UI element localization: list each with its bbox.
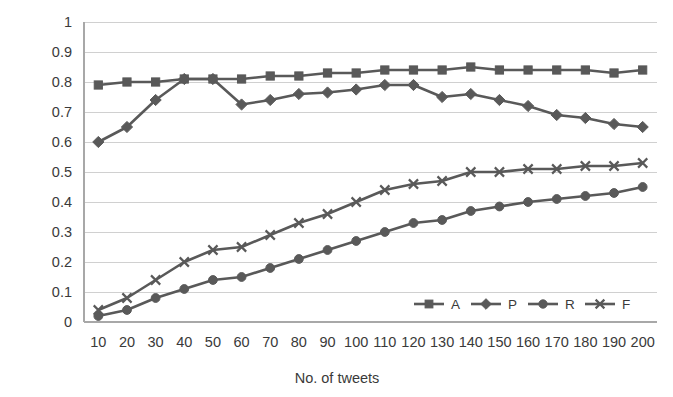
y-tick-label: 0.9 [52, 44, 72, 60]
data-point-marker-square [237, 75, 245, 83]
legend-label-A: A [451, 297, 460, 312]
data-point-marker-diamond [93, 136, 104, 147]
x-tick-label: 50 [205, 334, 221, 350]
data-point-marker-diamond [465, 88, 476, 99]
data-point-marker-square [295, 72, 303, 80]
x-tick-label: 160 [516, 334, 540, 350]
data-point-marker-circle [638, 183, 647, 192]
legend-label-F: F [622, 297, 630, 312]
legend-item-P[interactable]: P [471, 297, 517, 312]
legend-item-F[interactable]: F [585, 297, 630, 312]
data-point-marker-diamond [481, 299, 492, 310]
data-point-marker-square [553, 66, 561, 74]
data-point-marker-circle [524, 198, 533, 207]
data-point-marker-circle [323, 246, 332, 255]
chart-legend[interactable]: APRF [414, 297, 630, 312]
x-tick-label: 20 [119, 334, 135, 350]
x-tick-label: 170 [545, 334, 569, 350]
x-tick-label: 10 [90, 334, 106, 350]
series-line-R [98, 187, 642, 316]
data-point-marker-square [639, 66, 647, 74]
data-point-marker-circle [352, 237, 361, 246]
data-point-marker-square [323, 69, 331, 77]
data-point-marker-diamond [322, 87, 333, 98]
data-point-marker-square [438, 66, 446, 74]
y-tick-label: 0.5 [52, 164, 72, 180]
x-tick-label: 80 [291, 334, 307, 350]
data-series [93, 63, 649, 321]
data-point-marker-circle [209, 276, 218, 285]
data-point-marker-diamond [408, 79, 419, 90]
data-point-marker-diamond [637, 121, 648, 132]
x-axis-tick-labels: 1020304050607080901001101201301401501601… [90, 334, 655, 350]
data-point-marker-circle [237, 273, 246, 282]
data-point-marker-square [352, 69, 360, 77]
x-tick-label: 120 [401, 334, 425, 350]
y-tick-label: 0.8 [52, 74, 72, 90]
x-tick-label: 110 [373, 334, 396, 350]
x-tick-label: 40 [176, 334, 192, 350]
data-point-marker-circle [552, 195, 561, 204]
data-point-marker-diamond [551, 109, 562, 120]
data-point-marker-circle [581, 192, 590, 201]
data-point-marker-square [152, 78, 160, 86]
x-tick-label: 90 [319, 334, 335, 350]
data-point-marker-circle [151, 294, 160, 303]
data-point-marker-circle [380, 228, 389, 237]
data-point-marker-diamond [351, 84, 362, 95]
gridlines [84, 22, 657, 322]
data-point-marker-diamond [494, 94, 505, 105]
data-point-marker-diamond [293, 88, 304, 99]
series-line-P [98, 79, 642, 142]
y-tick-label: 0 [64, 314, 72, 330]
data-point-marker-circle [123, 306, 132, 315]
y-tick-label: 0.2 [52, 254, 72, 270]
data-point-marker-square [610, 69, 618, 77]
data-point-marker-diamond [580, 112, 591, 123]
data-point-marker-circle [610, 189, 619, 198]
data-point-marker-square [381, 66, 389, 74]
series-P [93, 73, 649, 147]
data-point-marker-square [94, 81, 102, 89]
legend-item-R[interactable]: R [528, 297, 575, 312]
data-point-marker-x [151, 275, 160, 284]
y-tick-label: 0.1 [52, 284, 72, 300]
data-point-marker-circle [438, 216, 447, 225]
x-tick-label: 130 [430, 334, 454, 350]
x-tick-label: 70 [262, 334, 278, 350]
y-tick-label: 0.4 [52, 194, 72, 210]
line-chart: 00.10.20.30.40.50.60.70.80.91 1020304050… [0, 0, 673, 397]
x-tick-label: 60 [234, 334, 250, 350]
data-point-marker-circle [294, 255, 303, 264]
data-point-marker-circle [266, 264, 275, 273]
data-point-marker-square [266, 72, 274, 80]
legend-label-R: R [565, 297, 575, 312]
data-point-marker-diamond [608, 118, 619, 129]
legend-item-A[interactable]: A [414, 297, 460, 312]
data-point-marker-diamond [522, 100, 533, 111]
data-point-marker-circle [466, 207, 475, 216]
chart-container: 00.10.20.30.40.50.60.70.80.91 1020304050… [0, 0, 673, 397]
x-tick-label: 100 [344, 334, 368, 350]
data-point-marker-square [467, 63, 475, 71]
y-axis-tick-labels: 00.10.20.30.40.50.60.70.80.91 [52, 14, 72, 330]
data-point-marker-diamond [379, 79, 390, 90]
data-point-marker-square [495, 66, 503, 74]
data-point-marker-square [123, 78, 131, 86]
data-point-marker-square [425, 300, 433, 308]
x-tick-label: 150 [487, 334, 511, 350]
x-tick-label: 180 [573, 334, 597, 350]
data-point-marker-square [581, 66, 589, 74]
x-tick-label: 140 [459, 334, 483, 350]
x-tick-label: 190 [602, 334, 626, 350]
data-point-marker-circle [180, 285, 189, 294]
y-tick-label: 0.3 [52, 224, 72, 240]
data-point-marker-circle [539, 300, 547, 308]
data-point-marker-circle [409, 219, 418, 228]
x-tick-label: 30 [148, 334, 164, 350]
data-point-marker-square [524, 66, 532, 74]
y-tick-label: 0.7 [52, 104, 72, 120]
y-tick-label: 0.6 [52, 134, 72, 150]
data-point-marker-diamond [437, 91, 448, 102]
data-point-marker-circle [495, 202, 504, 211]
